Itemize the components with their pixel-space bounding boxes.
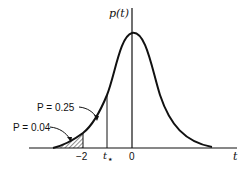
annotation-p025: P = 0.25	[37, 102, 75, 113]
y-axis-label: p(t)	[109, 7, 129, 20]
arrow-p025	[79, 107, 97, 118]
tick-zero: 0	[129, 151, 135, 162]
arrow-p004	[50, 127, 70, 139]
density-chart: p(t) t −2 t ★ 0 P = 0.25 P = 0.04	[0, 0, 246, 177]
annotation-p004: P = 0.04	[13, 122, 51, 133]
tick-neg2: −2	[76, 151, 88, 162]
tick-tstar-sub: ★	[108, 156, 113, 162]
x-axis-label: t	[233, 150, 238, 163]
